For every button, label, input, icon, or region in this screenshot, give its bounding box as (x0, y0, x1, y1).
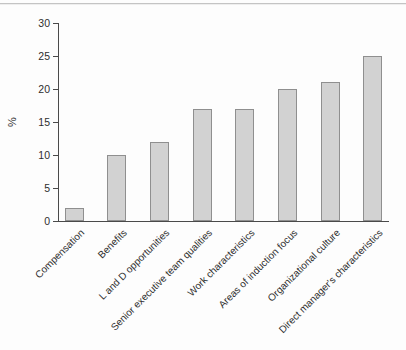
y-axis-title: % (6, 117, 18, 127)
category-label: Organizational culture (266, 227, 343, 304)
y-tick-mark (53, 155, 58, 156)
y-axis-line (58, 23, 59, 222)
y-tick-mark (53, 221, 58, 222)
y-tick-label: 10 (24, 149, 50, 161)
y-tick-mark (53, 56, 58, 57)
y-tick-label: 30 (24, 17, 50, 29)
category-label: L and D opportunities (96, 227, 171, 302)
y-tick-label: 20 (24, 83, 50, 95)
category-label: Areas of induction focus (216, 227, 299, 310)
bar-3 (193, 109, 212, 221)
bar-2 (150, 142, 169, 221)
y-tick-mark (53, 122, 58, 123)
bar-5 (278, 89, 297, 221)
bar-6 (321, 82, 340, 221)
y-tick-label: 15 (24, 116, 50, 128)
bar-chart: % 051015202530CompensationBenefitsL and … (0, 0, 406, 350)
bar-7 (363, 56, 382, 221)
category-label: Benefits (95, 227, 128, 260)
bar-0 (65, 208, 84, 221)
y-tick-label: 0 (24, 215, 50, 227)
y-tick-label: 5 (24, 182, 50, 194)
x-axis-line (58, 221, 389, 222)
y-tick-mark (53, 188, 58, 189)
y-tick-mark (53, 89, 58, 90)
bar-1 (107, 155, 126, 221)
y-tick-label: 25 (24, 50, 50, 62)
scanned-figure-page: % 051015202530CompensationBenefitsL and … (0, 0, 406, 350)
category-label: Compensation (32, 227, 85, 280)
y-tick-mark (53, 23, 58, 24)
bar-4 (235, 109, 254, 221)
